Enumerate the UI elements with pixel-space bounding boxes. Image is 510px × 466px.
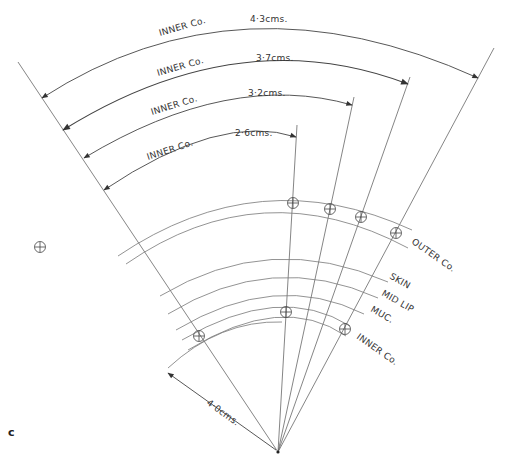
marker-inner-right (340, 324, 351, 335)
marker-outer-2 (325, 204, 336, 215)
marker-inner-left (194, 331, 205, 342)
lip-layer-arcs (160, 259, 388, 368)
outer-co-arc-1 (118, 200, 412, 256)
arc-labels: OUTER Co. SKIN MID LIP MUC. INNER Co. (355, 236, 458, 367)
dimension-label-inner-4: INNER Co. (146, 138, 195, 162)
marker-outer-1 (288, 198, 299, 209)
dimension-arc-3-7 (63, 60, 408, 130)
lip-reconstruction-diagram: INNER Co. 4·3cms. INNER Co. 3·7cms. INNE… (0, 0, 510, 466)
radial-line-left (18, 62, 278, 452)
label-inner-co: INNER Co. (355, 331, 400, 367)
marker-inner-center (281, 307, 292, 318)
radial-line-inner-3-7 (278, 77, 410, 452)
dimension-arc-2-6 (104, 131, 296, 190)
marker-outer-3 (356, 212, 367, 223)
outer-commissure-arcs (118, 200, 412, 264)
label-outer-co: OUTER Co. (410, 236, 458, 274)
radius-label: 4·0cms. (205, 398, 241, 428)
apex-point (276, 450, 279, 453)
panel-label: c (8, 426, 15, 439)
radial-line-inner-3-2 (278, 97, 354, 452)
dimension-arc-3-2 (84, 95, 352, 158)
radial-line-inner-2-6 (278, 125, 297, 452)
dimension-labels: INNER Co. 4·3cms. INNER Co. 3·7cms. INNE… (146, 14, 294, 162)
dimension-value-2-6: 2·6cms. (235, 128, 273, 138)
dimension-value-4-3: 4·3cms. (250, 14, 288, 24)
label-skin: SKIN (388, 271, 412, 291)
radius-dimension: 4·0cms. (168, 373, 276, 450)
dimension-label-inner-2: INNER Co. (156, 55, 205, 78)
marker-outer-left (35, 242, 46, 253)
dimension-label-inner-3: INNER Co. (150, 93, 199, 117)
radius-arc (168, 322, 282, 368)
inner-co-arc-1 (182, 307, 350, 340)
marker-outer-4 (391, 228, 402, 239)
radial-line-right (278, 48, 494, 452)
dimension-value-3-7: 3·7cms. (256, 53, 294, 63)
dimension-value-3-2: 3·2cms. (248, 88, 286, 98)
label-muc: MUC. (369, 304, 395, 325)
diagram-canvas: INNER Co. 4·3cms. INNER Co. 3·7cms. INNE… (0, 0, 510, 466)
muc-arc (176, 295, 364, 330)
